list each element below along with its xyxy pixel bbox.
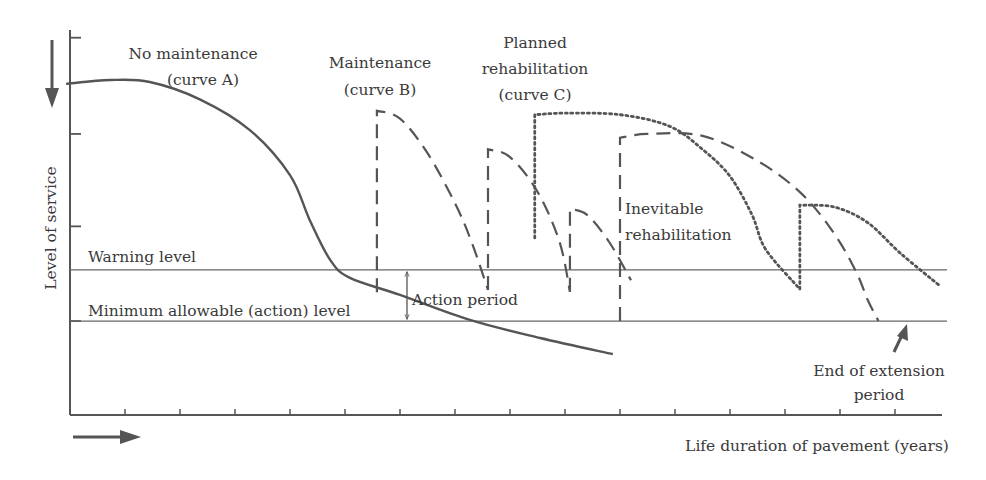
curve-b-segment-1 (377, 111, 488, 292)
end-extension-label-line1: End of extension (813, 362, 945, 380)
end-extension-label-line2: period (854, 386, 905, 404)
curve-c-segment-2 (800, 205, 940, 289)
right-arrow-icon (73, 430, 141, 444)
end-of-extension-arrow (894, 324, 908, 352)
y-axis-label: Level of service (42, 166, 60, 289)
minimum-level-label: Minimum allowable (action) level (88, 302, 351, 320)
y-ticks (70, 38, 81, 321)
curve-b-label-line1: Maintenance (329, 54, 432, 72)
curve-b-label-line2: (curve B) (344, 81, 416, 99)
curve-b-segment-3 (570, 209, 631, 292)
curve-a-label-line1: No maintenance (128, 45, 257, 63)
warning-level-label: Warning level (88, 248, 196, 266)
x-axis-label: Life duration of pavement (years) (685, 437, 949, 455)
down-arrow-icon (45, 40, 59, 108)
pavement-performance-diagram: No maintenance (curve A) Maintenance (cu… (0, 0, 986, 480)
curve-c-label-line2: rehabilitation (482, 60, 589, 78)
curve-c-label-line3: (curve C) (499, 86, 572, 104)
inevitable-label-line2: rehabilitation (625, 226, 732, 244)
curve-c-label-line1: Planned (503, 34, 567, 52)
action-period-label: Action period (411, 291, 518, 309)
curve-a-label-line2: (curve A) (167, 71, 239, 89)
inevitable-label-line1: Inevitable (625, 200, 704, 218)
